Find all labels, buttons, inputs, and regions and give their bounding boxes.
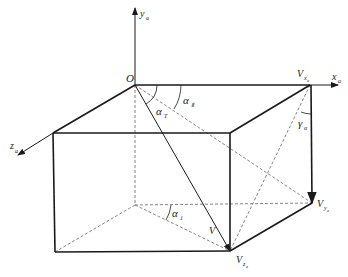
z-axis (18, 133, 53, 155)
svg-text:a: a (307, 78, 309, 83)
svg-text:Ⅱ: Ⅱ (191, 102, 195, 108)
x-axis-label: x a (331, 71, 341, 84)
y-axis-label: y a (139, 8, 149, 21)
svg-text:a: a (338, 78, 341, 84)
alpha-ii-label: α Ⅱ (183, 94, 195, 108)
svg-text:y: y (139, 8, 145, 19)
svg-text:γ: γ (298, 117, 303, 129)
z-axis-label: z a (9, 140, 18, 154)
svg-text:a: a (327, 208, 329, 213)
diagram-canvas: O y a x a z a V x a V y a V z a V α Ⅱ α … (0, 0, 348, 277)
svg-text:α: α (156, 105, 162, 117)
vx-label: V x a (297, 68, 309, 83)
svg-text:1: 1 (180, 215, 183, 221)
alpha-t-label: α T (156, 105, 168, 119)
gamma-a-label: γ α (298, 117, 308, 131)
alpha-i-label: α 1 (172, 207, 183, 221)
svg-text:a: a (146, 15, 149, 21)
vz-label: V z a (236, 254, 248, 269)
svg-text:x: x (331, 71, 337, 82)
angle-arcs (146, 85, 311, 220)
svg-text:a: a (246, 264, 248, 269)
svg-text:z: z (9, 140, 14, 151)
svg-text:α: α (183, 94, 189, 106)
origin-label: O (126, 72, 134, 84)
svg-text:α: α (304, 125, 308, 131)
v-vector (135, 85, 230, 251)
svg-text:a: a (15, 148, 18, 154)
svg-text:α: α (172, 207, 178, 219)
vy-vector (311, 85, 312, 203)
svg-text:T: T (164, 113, 168, 119)
vy-label: V y a (317, 198, 329, 213)
